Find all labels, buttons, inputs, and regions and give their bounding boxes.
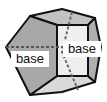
prism-base-figure: base base	[0, 0, 107, 102]
base-right-label: base	[68, 41, 96, 56]
base-left-label: base	[16, 51, 44, 66]
prism-diagram-svg: base base	[0, 0, 107, 102]
